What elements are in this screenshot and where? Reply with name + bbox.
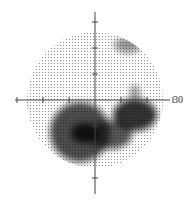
axis-label-30: 30 (173, 94, 183, 105)
defect-right-paracentral (130, 85, 140, 99)
field-area (0, 0, 194, 202)
visual-field-plot (0, 0, 194, 202)
defect-inferior-left-edge (14, 100, 26, 116)
defect-superior-temporal-edge (114, 37, 142, 53)
